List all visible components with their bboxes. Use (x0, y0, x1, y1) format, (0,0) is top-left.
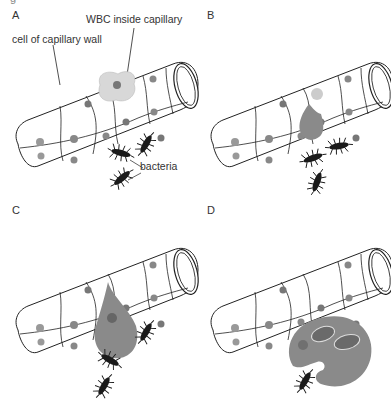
panel-d: D (195, 200, 391, 402)
panel-a: A WBC inside capillary cell of capillary… (0, 0, 195, 200)
capillary-diagram-b (195, 0, 391, 200)
capillary-diagram-d (195, 200, 391, 402)
capillary-diagram-c (0, 200, 195, 402)
panel-b: B (195, 0, 391, 200)
panel-c: C (0, 200, 195, 402)
capillary-diagram-a (0, 0, 195, 200)
